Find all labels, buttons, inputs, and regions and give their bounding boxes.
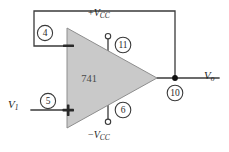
negative-supply-label: −VCC [88, 130, 110, 140]
positive-supply-terminal-icon [105, 34, 110, 39]
pin-10-number: 10 [170, 88, 180, 98]
pin-4-number: 4 [43, 28, 48, 38]
negative-supply-subscript: CC [100, 133, 110, 142]
pin-5-number: 5 [46, 96, 51, 106]
pin-11-number: 11 [118, 40, 127, 50]
positive-supply-subscript: CC [100, 11, 110, 20]
output-voltage-symbol: V [204, 69, 211, 81]
negative-supply-symbol: V [94, 129, 100, 140]
input-voltage-label: V1 [8, 99, 18, 110]
output-voltage-subscript: o [211, 74, 215, 83]
noninverting-input-plus-sign-vertical [67, 104, 70, 116]
pin-marker-11: 11 [115, 37, 131, 53]
pin-6-number: 6 [121, 105, 126, 115]
opamp-part-number: 741 [81, 73, 97, 84]
positive-supply-label: +VCC [88, 8, 110, 18]
schematic-canvas: 741 4 5 11 6 10 [0, 0, 229, 152]
output-voltage-label: Vo [204, 70, 214, 81]
positive-supply-symbol: V [94, 7, 100, 18]
inverting-input-minus-sign [63, 45, 74, 48]
opamp-schematic-figure: 741 4 5 11 6 10 [0, 0, 229, 152]
output-junction-node [172, 75, 178, 81]
input-voltage-symbol: V [8, 98, 15, 110]
input-voltage-subscript: 1 [15, 103, 19, 112]
negative-supply-terminal-icon [105, 119, 110, 124]
pin-marker-5: 5 [40, 93, 55, 108]
pin-marker-10: 10 [167, 85, 183, 101]
pin-marker-4: 4 [37, 25, 52, 40]
pin-marker-6: 6 [115, 102, 131, 118]
